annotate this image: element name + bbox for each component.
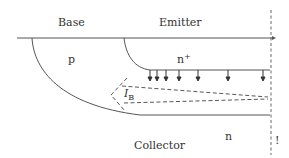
emitter-region-label: n+ bbox=[177, 52, 191, 66]
surface-arrow-icon bbox=[272, 36, 276, 40]
p-region-label: p bbox=[68, 53, 75, 66]
emitter-label: Emitter bbox=[159, 16, 202, 29]
collector-region-label: n bbox=[225, 130, 232, 143]
collector-label: Collector bbox=[134, 139, 186, 152]
injection-arrows bbox=[148, 70, 265, 81]
base-current-path bbox=[111, 78, 268, 111]
base-current-label: IB bbox=[123, 87, 134, 102]
transistor-diagram: Base Emitter p n+ IB n Collector ! bbox=[0, 0, 289, 158]
base-label: Base bbox=[58, 16, 85, 29]
emitter-junction-boundary bbox=[124, 38, 270, 70]
edge-mark: ! bbox=[275, 134, 279, 147]
